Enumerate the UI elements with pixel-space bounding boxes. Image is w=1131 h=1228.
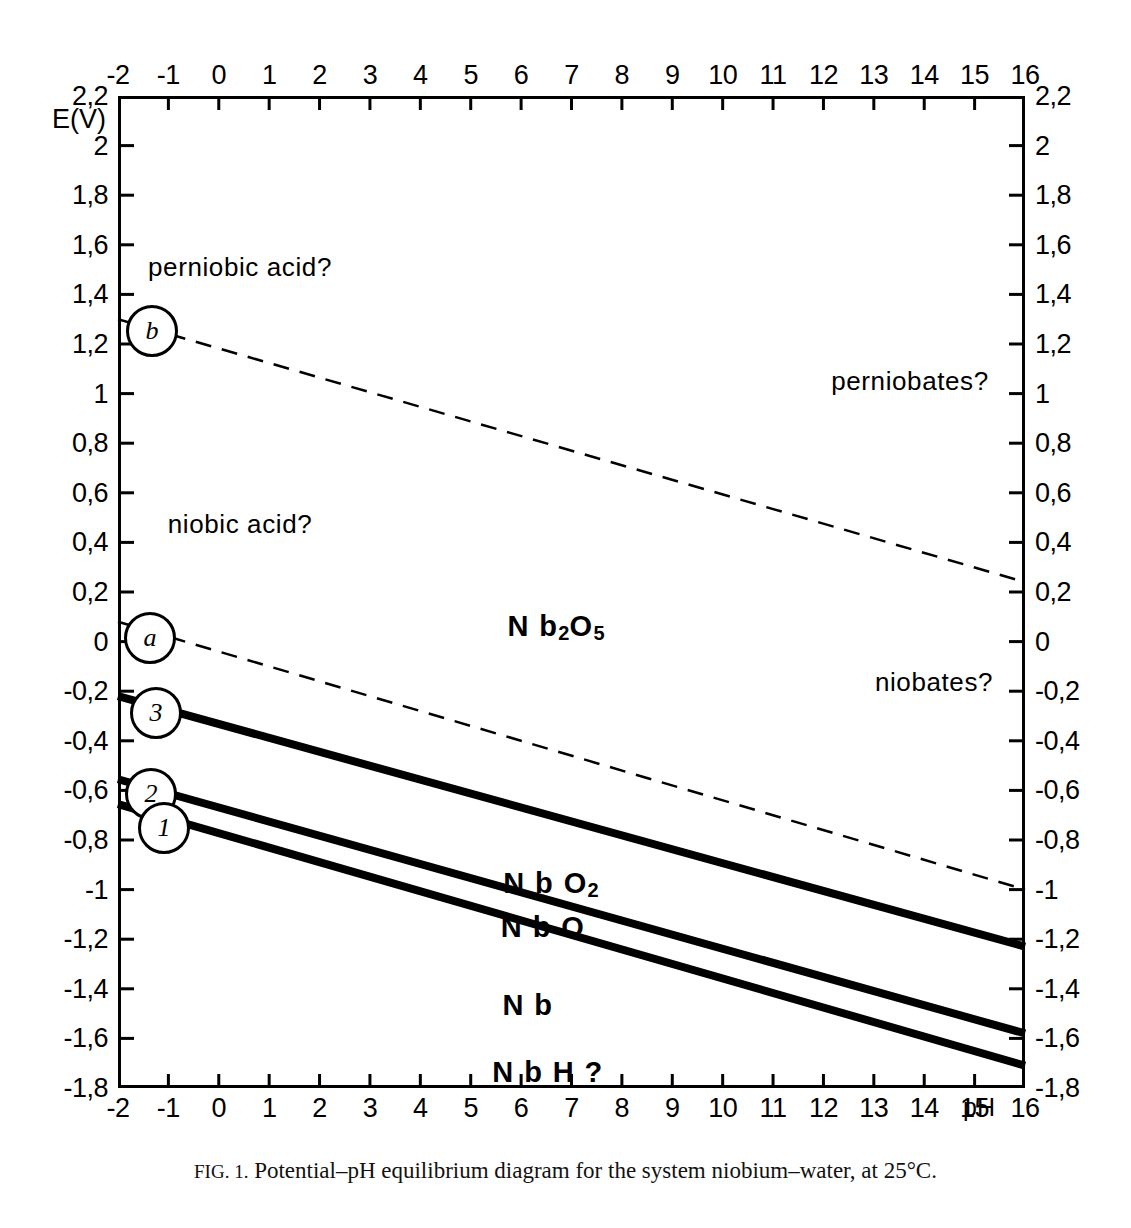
- x-tick-bottom-1: -1: [157, 1093, 180, 1124]
- x-tick-top-7: 5: [463, 60, 478, 91]
- y-tick-right-20: -1,8: [1035, 1073, 1080, 1104]
- curve-marker-b: b: [126, 305, 178, 357]
- region-label-nb: N b: [503, 989, 554, 1022]
- region-label-niobic-acid: niobic acid?: [168, 509, 313, 540]
- curve-marker-3: 3: [130, 687, 182, 739]
- x-tick-top-13: 11: [760, 60, 787, 91]
- y-tick-left-14: -0,6: [63, 775, 108, 806]
- x-tick-top-16: 14: [910, 60, 939, 91]
- nb2o5-sub-5: 5: [593, 622, 604, 644]
- x-tick-bottom-6: 4: [413, 1093, 428, 1124]
- y-tick-right-6: 1: [1035, 378, 1050, 409]
- region-label-nb2o5: N b2O5: [507, 610, 604, 645]
- y-tick-left-8: 0,6: [72, 477, 108, 508]
- y-tick-right-15: -0,8: [1035, 825, 1080, 856]
- x-tick-top-12: 10: [708, 60, 737, 91]
- x-tick-top-5: 3: [363, 60, 378, 91]
- y-tick-left-19: -1,6: [63, 1023, 108, 1054]
- x-tick-top-2: 0: [212, 60, 227, 91]
- x-tick-bottom-0: -2: [106, 1093, 129, 1124]
- region-label-nbh: N b H ?: [492, 1056, 603, 1089]
- x-tick-bottom-15: 13: [859, 1093, 888, 1124]
- y-tick-right-8: 0,6: [1035, 477, 1071, 508]
- x-tick-bottom-14: 12: [809, 1093, 838, 1124]
- region-label-niobates: niobates?: [875, 667, 993, 698]
- x-tick-bottom-3: 1: [262, 1093, 277, 1124]
- y-tick-left-13: -0,4: [63, 725, 108, 756]
- y-axis-title: E(V): [52, 104, 106, 135]
- nb2o5-base: N b: [507, 610, 558, 642]
- x-tick-bottom-11: 9: [665, 1093, 680, 1124]
- y-tick-right-11: 0: [1035, 626, 1050, 657]
- x-tick-top-17: 15: [960, 60, 989, 91]
- y-tick-right-19: -1,6: [1035, 1023, 1080, 1054]
- y-tick-right-17: -1,2: [1035, 924, 1080, 955]
- x-tick-bottom-4: 2: [312, 1093, 327, 1124]
- y-tick-left-2: 1,8: [72, 180, 108, 211]
- y-tick-left-10: 0,2: [72, 577, 108, 608]
- x-tick-bottom-16: 14: [910, 1093, 939, 1124]
- figure-caption: FIG. 1. Potential–pH equilibrium diagram…: [0, 1158, 1131, 1184]
- caption-text: Potential–pH equilibrium diagram for the…: [254, 1158, 937, 1183]
- x-tick-top-6: 4: [413, 60, 428, 91]
- y-tick-left-9: 0,4: [72, 527, 108, 558]
- y-tick-right-13: -0,4: [1035, 725, 1080, 756]
- y-tick-right-1: 2: [1035, 130, 1050, 161]
- x-tick-top-3: 1: [262, 60, 277, 91]
- x-tick-top-10: 8: [615, 60, 630, 91]
- x-tick-top-11: 9: [665, 60, 680, 91]
- x-tick-bottom-13: 11: [760, 1093, 787, 1124]
- caption-prefix: FIG. 1.: [194, 1161, 248, 1182]
- y-tick-left-5: 1,2: [72, 329, 108, 360]
- y-tick-left-20: -1,8: [63, 1073, 108, 1104]
- y-tick-right-2: 1,8: [1035, 180, 1071, 211]
- y-tick-right-12: -0,2: [1035, 676, 1080, 707]
- nbo2-base: N b O: [503, 867, 587, 899]
- x-tick-top-0: -2: [106, 60, 129, 91]
- x-tick-bottom-12: 10: [708, 1093, 737, 1124]
- y-tick-right-5: 1,2: [1035, 329, 1071, 360]
- x-tick-bottom-7: 5: [463, 1093, 478, 1124]
- nbo2-sub-2: 2: [588, 879, 599, 901]
- y-tick-right-0: 2,2: [1035, 81, 1071, 112]
- y-tick-left-3: 1,6: [72, 229, 108, 260]
- region-label-nbo2: N b O2: [503, 867, 598, 902]
- y-tick-right-9: 0,4: [1035, 527, 1071, 558]
- curve-marker-1: 1: [138, 802, 190, 854]
- x-tick-bottom-10: 8: [615, 1093, 630, 1124]
- y-tick-left-15: -0,8: [63, 825, 108, 856]
- x-tick-top-4: 2: [312, 60, 327, 91]
- nb2o5-oxygen: O: [569, 610, 593, 642]
- x-tick-top-9: 7: [564, 60, 579, 91]
- y-tick-right-14: -0,6: [1035, 775, 1080, 806]
- y-tick-right-16: -1: [1035, 874, 1058, 905]
- y-tick-right-3: 1,6: [1035, 229, 1071, 260]
- curve-marker-a: a: [124, 612, 176, 664]
- x-tick-top-14: 12: [809, 60, 838, 91]
- y-tick-left-6: 1: [93, 378, 108, 409]
- y-tick-left-12: -0,2: [63, 676, 108, 707]
- y-tick-left-4: 1,4: [72, 279, 108, 310]
- region-label-nbo: N b O: [501, 911, 585, 944]
- y-tick-right-18: -1,4: [1035, 973, 1080, 1004]
- pourbaix-diagram-figure: -2-1012345678910111213141516 -2-10123456…: [0, 0, 1131, 1228]
- y-tick-left-7: 0,8: [72, 428, 108, 459]
- x-tick-top-1: -1: [157, 60, 180, 91]
- x-tick-top-15: 13: [859, 60, 888, 91]
- y-tick-left-11: 0: [93, 626, 108, 657]
- y-tick-right-7: 0,8: [1035, 428, 1071, 459]
- y-tick-left-17: -1,2: [63, 924, 108, 955]
- x-tick-bottom-2: 0: [212, 1093, 227, 1124]
- y-tick-left-18: -1,4: [63, 973, 108, 1004]
- x-tick-bottom-5: 3: [363, 1093, 378, 1124]
- x-tick-top-8: 6: [514, 60, 529, 91]
- y-tick-right-10: 0,2: [1035, 577, 1071, 608]
- x-tick-bottom-9: 7: [564, 1093, 579, 1124]
- nb2o5-sub-2: 2: [558, 622, 569, 644]
- y-tick-left-16: -1: [85, 874, 108, 905]
- y-tick-right-4: 1,4: [1035, 279, 1071, 310]
- region-label-perniobic-acid: perniobic acid?: [148, 252, 332, 283]
- x-axis-title: pH: [963, 1093, 995, 1122]
- region-label-perniobates: perniobates?: [831, 366, 989, 397]
- x-tick-bottom-8: 6: [514, 1093, 529, 1124]
